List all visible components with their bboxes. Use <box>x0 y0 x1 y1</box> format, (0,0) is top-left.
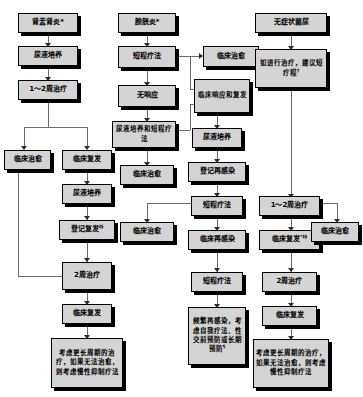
node-clinical-relapse-left[interactable]: 临床复发 <box>62 150 112 170</box>
node-2-week-treatment-left[interactable]: 2周治疗 <box>62 262 112 290</box>
node-label: 临床治愈 <box>133 227 161 236</box>
node-clinical-reinfection[interactable]: 临床再感染 <box>188 230 246 250</box>
footnote-marker: *‡§ <box>300 234 307 239</box>
footnote-marker: ¶ <box>223 344 226 349</box>
node-label: 尿液培养 <box>73 189 101 198</box>
edge-m6-up-h <box>176 130 190 131</box>
node-if-treated-short-course[interactable]: 如进行治疗，建议短疗程† <box>255 49 327 88</box>
node-short-course-therapy[interactable]: 短程疗法 <box>118 46 176 68</box>
node-label: 临床复发 <box>73 155 101 164</box>
node-label: 2周治疗 <box>277 277 303 286</box>
node-label: 1～2周治疗 <box>29 85 67 94</box>
node-clinical-cure-mid[interactable]: 临床治愈 <box>203 46 259 67</box>
node-label: 登记再感染 <box>200 167 235 176</box>
edge-n3-bus <box>24 127 87 128</box>
node-label: 尿液培养 <box>34 51 62 60</box>
node-label: 临床治愈 <box>321 227 349 236</box>
node-2-week-treatment-right[interactable]: 2周治疗 <box>262 272 317 292</box>
node-register-reinfection[interactable]: 登记再感染 <box>188 162 246 182</box>
node-register-relapse[interactable]: 登记复发‡§ <box>59 220 115 240</box>
edge-r2-r3 <box>291 88 292 198</box>
node-consider-longer-course-left[interactable]: 考虑更长周期的治疗，如果无法治愈，则考虑慢性抑制疗法 <box>51 338 123 388</box>
node-label: 2周治疗 <box>74 271 100 280</box>
node-urine-culture-mid[interactable]: 尿液培养 <box>192 128 242 148</box>
node-clinical-response-and-relapse[interactable]: 临床响应和复发 <box>194 79 250 113</box>
footnote-marker: ‡§ <box>99 224 104 229</box>
node-urine-culture-and-short-course[interactable]: 尿液培养和短程疗法 <box>112 121 176 148</box>
node-1-2-week-treatment-right[interactable]: 1～2周治疗 <box>259 196 320 216</box>
node-asymptomatic-bacteriuria[interactable]: 无症状菌尿 <box>255 13 327 33</box>
node-1-2-week-treatment-left[interactable]: 1～2周治疗 <box>18 80 78 100</box>
edge-m2-fan <box>190 56 191 89</box>
node-pyelonephritis[interactable]: 肾盂肾炎* <box>18 13 78 33</box>
node-label: 临床治愈 <box>14 155 42 164</box>
node-label: 膀胱炎* <box>135 18 160 27</box>
node-label: 短程疗法 <box>203 277 231 286</box>
node-label: 肾盂肾炎* <box>32 18 64 27</box>
node-label: 考虑更长周期的治疗，如果无法治愈，则考虑慢性抑制疗法 <box>256 349 326 377</box>
node-clinical-relapse-left-2[interactable]: 临床复发 <box>62 304 112 324</box>
node-label: 无响应 <box>137 91 158 100</box>
node-frequent-reinfection-advice[interactable]: 频繁再感染，考虑自我疗法、性交前预防或长期预防¶ <box>188 307 246 365</box>
node-no-response[interactable]: 无响应 <box>118 85 176 107</box>
flowchart-canvas: 肾盂肾炎* 尿液培养 1～2周治疗 临床治愈 临床复发 尿液培养 登记复发‡§ … <box>0 0 363 397</box>
node-label: 登记复发‡§ <box>71 225 104 234</box>
edge-n8-back-v <box>18 170 19 276</box>
node-clinical-cure-right[interactable]: 临床治愈 <box>311 222 359 242</box>
node-short-course-therapy-3[interactable]: 短程疗法 <box>191 272 243 292</box>
node-label: 临床再感染 <box>200 235 235 244</box>
node-label: 短程疗法 <box>203 201 231 210</box>
edge-n3-split <box>48 100 49 127</box>
node-label: 临床复发 <box>276 311 304 320</box>
node-label: 如进行治疗，建议短疗程† <box>258 59 324 78</box>
node-label: 尿液培养和短程疗法 <box>115 125 173 144</box>
node-label: 临床治愈 <box>217 52 245 61</box>
edge-m6-up-v <box>190 104 191 130</box>
node-label: 短程疗法 <box>133 52 161 61</box>
node-urine-culture-left[interactable]: 尿液培养 <box>18 46 78 66</box>
node-urine-culture-left-2[interactable]: 尿液培养 <box>62 184 112 204</box>
node-consider-longer-course-right[interactable]: 考虑更长周期的治疗，如果无法治愈，则考虑慢性抑制疗法 <box>253 339 329 388</box>
edge-n8-back-h <box>18 276 66 277</box>
node-label: 临床复发*‡§ <box>272 235 307 244</box>
edge-m2-out <box>176 56 190 57</box>
node-label: 1～2周治疗 <box>271 201 309 210</box>
node-label: 临床治愈 <box>133 170 161 179</box>
node-label: 频繁再感染，考虑自我疗法、性交前预防或长期预防¶ <box>191 317 243 355</box>
node-label: 考虑更长周期的治疗，如果无法治愈，则考虑慢性抑制疗法 <box>54 349 120 377</box>
node-clinical-cure-left[interactable]: 临床治愈 <box>4 150 51 170</box>
footnote-marker: † <box>297 67 299 72</box>
node-short-course-therapy-2[interactable]: 短程疗法 <box>191 196 243 216</box>
node-clinical-cure-mid-3[interactable]: 临床治愈 <box>120 222 174 242</box>
node-label: 临床复发 <box>73 309 101 318</box>
node-label: 临床响应和复发 <box>198 91 247 100</box>
node-cystitis[interactable]: 膀胱炎* <box>118 13 176 33</box>
node-label: 无症状菌尿 <box>274 18 309 27</box>
node-clinical-relapse-right-2[interactable]: 临床复发 <box>262 306 317 326</box>
node-clinical-cure-mid-2[interactable]: 临床治愈 <box>120 165 174 185</box>
edge-r3-right-h <box>320 203 337 204</box>
node-label: 尿液培养 <box>203 133 231 142</box>
